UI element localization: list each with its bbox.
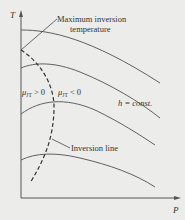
- isenthalp-curve-3: [21, 102, 155, 145]
- max-inversion-label-line1: Maximum inversion: [57, 14, 127, 24]
- inversion-line-label: Inversion line: [71, 143, 118, 153]
- x-axis-label: P: [172, 205, 179, 215]
- t-p-diagram: T P Maximum inversion temperature μJT > …: [0, 0, 185, 220]
- max-inversion-label-line2: temperature: [70, 24, 111, 34]
- y-axis-label: T: [10, 10, 16, 20]
- h-const-label: h = const.: [118, 98, 152, 108]
- y-axis-arrow-icon: [19, 10, 23, 17]
- x-axis-arrow-icon: [174, 196, 181, 200]
- isenthalp-curve-1: [21, 30, 160, 83]
- axes: [21, 14, 178, 198]
- mu-positive-label: μJT > 0: [21, 87, 45, 98]
- mu-negative-label: μJT < 0: [57, 87, 81, 98]
- max-inversion-leader: [21, 19, 57, 50]
- inversion-line-leader: [52, 139, 70, 148]
- inversion-line: [21, 50, 54, 183]
- isenthalp-curve-4: [21, 154, 155, 187]
